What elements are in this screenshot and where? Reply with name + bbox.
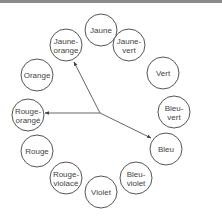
color-label: Rouge xyxy=(25,147,49,156)
color-node-bleu-violet: Bleu-violet xyxy=(120,162,152,194)
color-label: Rouge- xyxy=(15,107,42,116)
color-node-jaune-orange: Jaune-orange xyxy=(50,29,82,61)
color-label: Bleu- xyxy=(127,170,146,179)
color-node-rouge: Rouge xyxy=(21,135,53,167)
color-label: Orange xyxy=(24,71,51,80)
color-label: violet xyxy=(127,179,146,188)
color-node-rouge-orange: Rouge-orangé xyxy=(12,99,44,131)
color-label: orange xyxy=(54,46,79,55)
color-label: Bleu- xyxy=(165,104,184,113)
color-node-bleu: Bleu xyxy=(150,133,182,165)
color-label: orangé xyxy=(16,116,41,125)
color-node-bleu-vert: Bleu-vert xyxy=(158,96,190,128)
arrow-to-bleu xyxy=(100,113,151,138)
color-label: vert xyxy=(167,113,181,122)
color-wheel-diagram: JauneJaune-vertVertBleu-vertBleuBleu-vio… xyxy=(0,0,222,217)
color-node-jaune-vert: Jaune-vert xyxy=(113,29,145,61)
color-label: violacé xyxy=(54,179,79,188)
color-nodes-group: JauneJaune-vertVertBleu-vertBleuBleu-vio… xyxy=(12,14,190,208)
arrow-to-jaune-orange xyxy=(74,62,100,113)
color-label: Rouge- xyxy=(53,170,80,179)
color-label: Vert xyxy=(156,69,171,78)
arrows-group xyxy=(45,62,151,138)
color-node-jaune: Jaune xyxy=(85,14,117,46)
color-label: Bleu xyxy=(158,145,174,154)
color-label: Jaune xyxy=(90,26,112,35)
color-node-violet: Violet xyxy=(85,176,117,208)
color-node-orange: Orange xyxy=(21,59,53,91)
color-label: Violet xyxy=(91,188,112,197)
color-label: Jaune- xyxy=(54,37,79,46)
color-label: Jaune- xyxy=(117,37,142,46)
color-node-vert: Vert xyxy=(147,57,179,89)
color-node-rouge-violace: Rouge-violacé xyxy=(50,162,82,194)
color-label: vert xyxy=(122,46,136,55)
